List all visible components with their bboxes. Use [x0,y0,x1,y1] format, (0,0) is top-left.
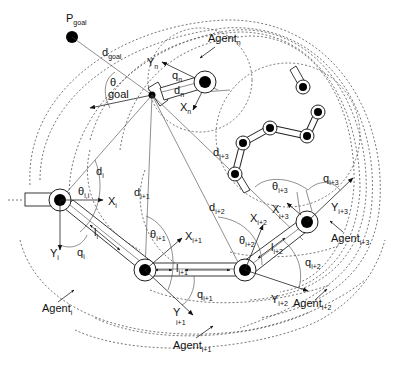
agent-n-x-label: Xn [180,101,191,115]
agent-i1-y-sub: i+1 [176,319,186,326]
theta-goal-sub: goal [108,88,129,100]
agent-i3-link-stub-2 [306,190,312,211]
d-i-label: di [96,165,104,179]
agent-i2-y-label: Yi+2 [271,293,288,307]
agent-i-y-label: Yi [50,247,59,261]
agent-i1-label: Agenti+1 [173,339,211,353]
theta-i-label: θi,i [78,185,90,199]
agent-i3-x-sub: i+3 [279,213,289,220]
agent-i1-pointer [196,326,213,338]
agent-n-joint [199,76,211,88]
agent-n-label: Agentn [208,32,241,46]
d-goal-label: dgoal [102,46,122,61]
subchain [228,66,325,193]
agent-i3-q-label: qi+3 [323,172,339,186]
agent-i2-y-axis [245,270,308,291]
agent-i2-label: Agenti+2 [293,297,331,311]
agent-i2-q-label: qi+2 [305,256,321,270]
agent-i-x-label: Xi [108,195,117,209]
d-i2-label: di+2 [209,201,225,215]
agent-i3-pointer [330,221,343,232]
agent-i3-label: Agenti+3 [331,232,369,246]
q-i1-arc [182,276,194,305]
theta-goal-label: θ [110,76,116,88]
agent-i3-link-stub-1 [297,192,300,213]
agent-n-pointer [200,47,215,58]
d-i3-label: di+3 [213,146,229,160]
distance-lines [60,95,303,270]
theta-i2-label: θi+2 [239,234,255,248]
d-i1-label: di+1 [134,186,150,200]
agent-n-y-label: Yn [147,56,158,70]
theta-i3-label: θi+3 [272,180,288,194]
agent-i1-y-label: Y [173,306,181,318]
multi-agent-chain-diagram: Pgoal dgoal θ goal Yn Xn qn dn Agentn [0,0,403,372]
agent-n-x-axis [193,92,202,110]
agent-i-label: Agenti [42,302,73,316]
agent-i2-x-label: Xi+2 [250,212,267,226]
agent-i1-q-label: qi+1 [197,288,213,302]
agent-i1-x-label: Xi+1 [185,230,202,244]
agent-i-pointer [58,290,74,302]
agent-i1-y-axis [145,270,193,315]
goal-label: Pgoal [66,12,87,27]
agent-i3-y-label: Yi+3 [331,201,348,215]
agent-i-q-label: qi [77,246,85,260]
